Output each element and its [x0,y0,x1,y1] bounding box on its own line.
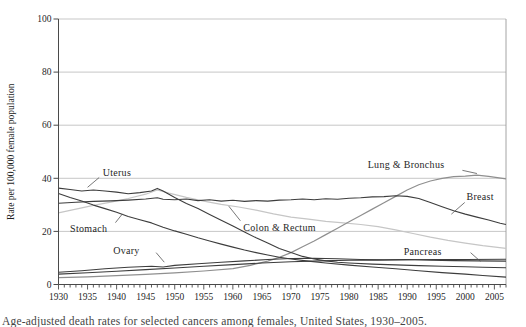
series-label-uterus: Uterus [103,167,131,178]
y-tick-label-40: 40 [42,174,52,184]
leader-lung-bronchus [462,170,477,173]
leader-uterus [88,178,100,188]
x-tick-label-1935: 1935 [78,292,97,302]
leader-pancreas [471,253,481,262]
x-tick-label-1980: 1980 [340,292,359,302]
leader-stomach [115,214,122,223]
x-tick-label-1940: 1940 [107,292,126,302]
series-label-colon-rectum: Colon & Rectum [243,222,316,233]
x-tick-label-2005: 2005 [485,292,504,302]
x-tick-label-1945: 1945 [136,292,155,302]
line-breast [59,196,507,225]
x-tick-label-1930: 1930 [49,292,68,302]
series-label-ovary: Ovary [113,245,140,256]
series-label-lung-bronchus: Lung & Bronchus [368,159,445,170]
leader-ovary [156,253,164,263]
y-tick-label-60: 60 [42,120,52,130]
line-colon-rectum [59,190,507,248]
x-tick-label-1965: 1965 [252,292,271,302]
x-tick-label-1950: 1950 [165,292,184,302]
series-label-pancreas: Pancreas [404,246,442,257]
x-tick-label-1955: 1955 [194,292,213,302]
leader-colon-rectum [229,206,241,221]
y-tick-label-20: 20 [42,227,52,237]
series-label-stomach: Stomach [70,223,107,234]
y-axis-title: Rate per 100,000 female population [6,83,16,220]
series-label-breast: Breast [466,191,493,202]
x-tick-label-1995: 1995 [427,292,446,302]
x-tick-label-1970: 1970 [281,292,300,302]
x-tick-label-2000: 2000 [456,292,475,302]
x-tick-label-1990: 1990 [398,292,417,302]
y-tick-label-100: 100 [37,14,52,24]
figure-caption: Age-adjusted death rates for selected ca… [2,315,526,327]
y-tick-label-0: 0 [47,280,52,290]
x-tick-label-1975: 1975 [311,292,330,302]
y-tick-label-80: 80 [42,67,52,77]
x-tick-label-1960: 1960 [223,292,242,302]
x-tick-label-1985: 1985 [369,292,388,302]
